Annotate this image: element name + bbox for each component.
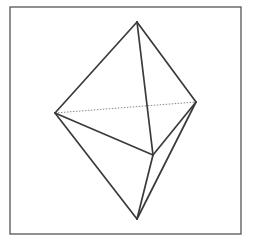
edge-right-middle bbox=[153, 102, 196, 155]
hidden-edge-left-right bbox=[55, 102, 196, 113]
edge-top-left bbox=[55, 22, 137, 113]
edge-left-middle bbox=[55, 113, 153, 155]
edge-middle-bottom bbox=[137, 155, 153, 219]
polyhedron-figure bbox=[0, 0, 253, 245]
edge-left-bottom bbox=[55, 113, 137, 219]
bipyramid-diagram bbox=[0, 0, 253, 245]
edge-right-bottom bbox=[137, 102, 196, 219]
edge-top-middle bbox=[137, 22, 153, 155]
figure-frame bbox=[10, 7, 241, 234]
